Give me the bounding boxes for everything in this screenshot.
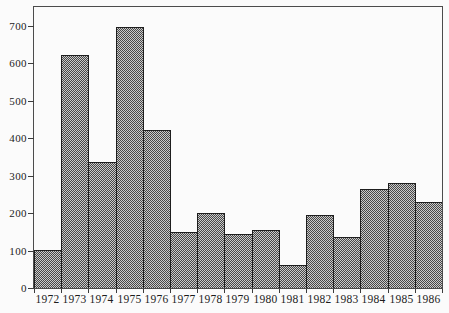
y-tick-300 (28, 176, 34, 177)
bar-1981 (279, 265, 307, 288)
bar-1984 (360, 189, 389, 288)
x-tick-label-1978: 1978 (197, 292, 224, 306)
x-tick-label-1977: 1977 (170, 292, 197, 306)
x-tick-label-1985: 1985 (388, 292, 415, 306)
bar-1985 (388, 183, 416, 288)
y-tick-label-0: 0 (1, 282, 27, 294)
bar-1972 (34, 250, 62, 288)
y-tick-700 (28, 26, 34, 27)
bar-1977 (170, 232, 198, 288)
y-tick-100 (28, 251, 34, 252)
bar-1986 (415, 202, 443, 288)
bar-1978 (197, 213, 225, 288)
bar-1974 (88, 162, 117, 288)
bar-1975 (116, 27, 144, 288)
x-tick-label-1984: 1984 (360, 292, 387, 306)
x-tick-label-1982: 1982 (306, 292, 333, 306)
plot-area (33, 6, 443, 289)
y-tick-label-700: 700 (1, 20, 27, 32)
bar-chart: 0100200300400500600700 19721973197419751… (0, 0, 449, 313)
bar-1980 (252, 230, 280, 288)
x-tick-label-1976: 1976 (143, 292, 170, 306)
y-tick-label-100: 100 (1, 245, 27, 257)
x-tick-15 (442, 289, 443, 293)
y-tick-600 (28, 63, 34, 64)
x-tick-label-1979: 1979 (224, 292, 251, 306)
y-tick-label-600: 600 (1, 57, 27, 69)
y-tick-400 (28, 138, 34, 139)
bar-1973 (61, 55, 89, 288)
y-tick-500 (28, 101, 34, 102)
bar-1983 (333, 237, 361, 288)
bar-1982 (306, 215, 334, 288)
bar-1976 (143, 130, 171, 288)
x-tick-label-1973: 1973 (61, 292, 88, 306)
y-tick-label-400: 400 (1, 132, 27, 144)
x-tick-label-1986: 1986 (415, 292, 442, 306)
x-tick-label-1975: 1975 (116, 292, 143, 306)
bar-1979 (224, 234, 253, 288)
y-tick-200 (28, 213, 34, 214)
y-tick-label-200: 200 (1, 207, 27, 219)
x-tick-label-1980: 1980 (252, 292, 279, 306)
x-tick-label-1972: 1972 (34, 292, 61, 306)
x-tick-label-1974: 1974 (88, 292, 115, 306)
x-tick-label-1983: 1983 (333, 292, 360, 306)
y-tick-label-500: 500 (1, 95, 27, 107)
x-tick-label-1981: 1981 (279, 292, 306, 306)
y-tick-label-300: 300 (1, 170, 27, 182)
